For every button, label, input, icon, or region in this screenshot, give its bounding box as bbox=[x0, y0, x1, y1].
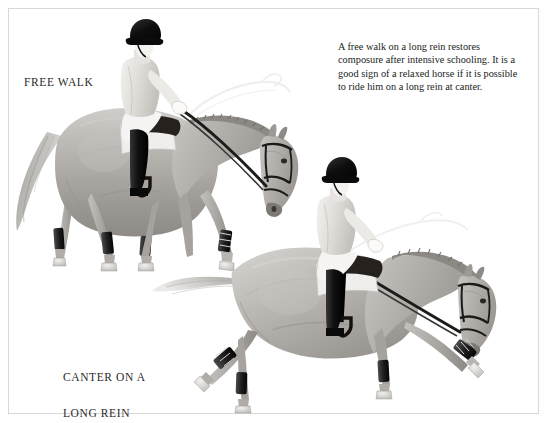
label-free-walk: FREE WALK bbox=[24, 76, 93, 88]
rider1-hand bbox=[172, 101, 187, 114]
horse1-wrap-far-hind bbox=[53, 228, 65, 251]
horse1-neck bbox=[172, 119, 272, 202]
label-canter-line2: LONG REIN bbox=[63, 407, 146, 419]
rider2-jacket bbox=[317, 195, 356, 255]
horse2-head bbox=[458, 275, 496, 352]
horse1-hoof-near-fore bbox=[219, 261, 234, 271]
horse2-eye bbox=[480, 299, 486, 304]
label-canter-on-a-long-rein: CANTER ON A LONG REIN bbox=[63, 347, 146, 423]
horse1-eye bbox=[281, 159, 287, 164]
horse1-tail bbox=[16, 132, 62, 231]
horse1-wrap-near-hind bbox=[101, 231, 114, 254]
rider1-jacket bbox=[121, 57, 160, 117]
horse2-hoof-far-fore bbox=[376, 391, 392, 399]
horse1-hoof-near-hind bbox=[101, 263, 117, 271]
label-canter-line1: CANTER ON A bbox=[63, 371, 146, 383]
illustration-page: FREE WALK CANTER ON A LONG REIN A free w… bbox=[0, 0, 548, 423]
horse2-wrap-far-hind bbox=[236, 372, 248, 394]
horse1-hoof-far-fore bbox=[138, 263, 154, 271]
horse1-hoof-far-hind bbox=[53, 258, 66, 266]
ghost-underdrawing bbox=[188, 74, 290, 120]
horse2-hoof-far-hind bbox=[235, 406, 251, 413]
horse2-wrap-far-fore bbox=[377, 360, 389, 383]
figure-free-walk bbox=[16, 19, 298, 271]
rider2-hand bbox=[368, 239, 383, 252]
caption-text: A free walk on a long rein restores comp… bbox=[338, 40, 518, 94]
